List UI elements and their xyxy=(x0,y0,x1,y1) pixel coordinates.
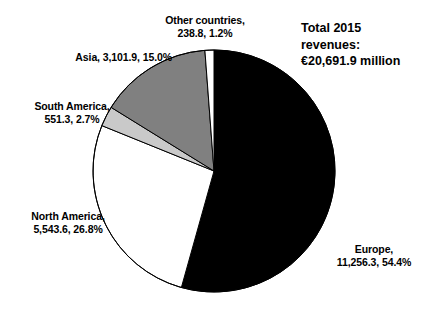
total-revenues-annotation: Total 2015 revenues: €20,691.9 million xyxy=(301,20,433,70)
pie-slices xyxy=(93,50,335,292)
pie-chart-figure: Other countries, 238.8, 1.2% Asia, 3,101… xyxy=(0,0,435,315)
slice-label-south-america: South America, 551.3, 2.7% xyxy=(10,100,134,127)
slice-label-asia: Asia, 3,101.9, 15.0% xyxy=(26,51,172,64)
slice-label-europe: Europe, 11,256.3, 54.4% xyxy=(314,243,434,270)
slice-label-north-america: North America, 5,543.6, 26.8% xyxy=(6,210,130,237)
slice-label-other-countries: Other countries, 238.8, 1.2% xyxy=(137,14,273,41)
